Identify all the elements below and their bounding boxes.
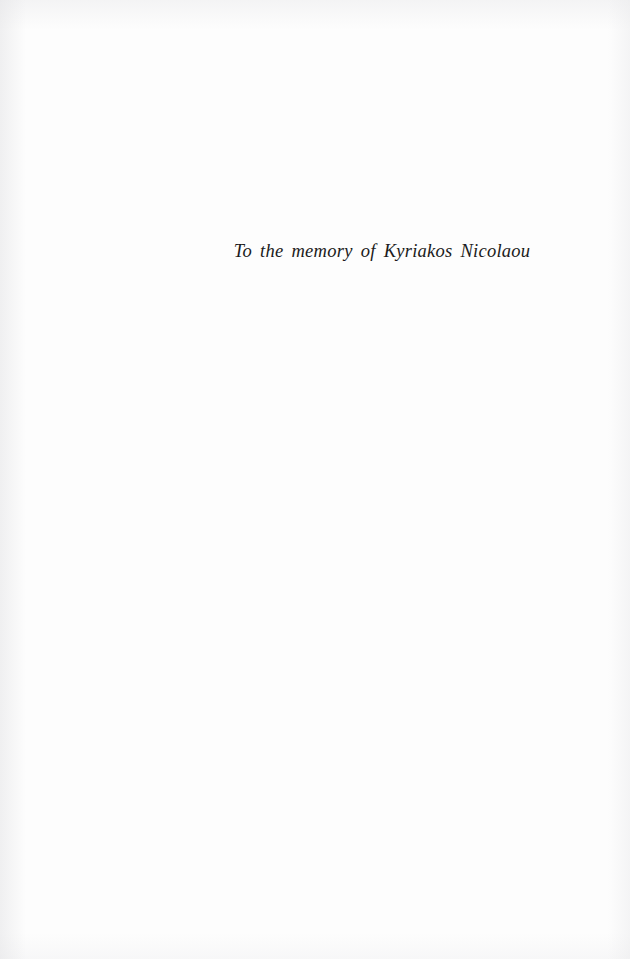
page-scan-tone [0, 0, 630, 959]
dedication-text: To the memory of Kyriakos Nicolaou [234, 238, 531, 264]
dedication-page: To the memory of Kyriakos Nicolaou [0, 0, 630, 959]
dedication-block: To the memory of Kyriakos Nicolaou [0, 238, 630, 264]
